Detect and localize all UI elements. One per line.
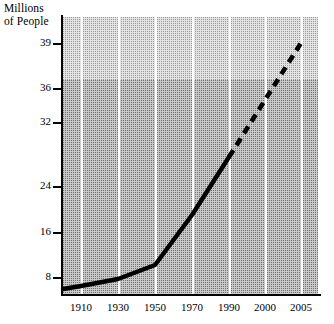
y-tick-label-36: 36 (11, 82, 51, 93)
gridline-2000 (265, 17, 267, 295)
x-tick-label-2005: 2005 (279, 301, 323, 313)
gridline-1910 (81, 17, 83, 295)
y-tick-label-39: 39 (11, 37, 51, 48)
y-tick-mark-32 (53, 122, 62, 124)
y-tick-mark-24 (53, 186, 62, 188)
y-tick-mark-39 (53, 43, 62, 45)
y-tick-label-24: 24 (11, 180, 51, 191)
gridline-1950 (155, 17, 157, 295)
population-line-chart: Millions of People 39363224168 191019301… (0, 0, 334, 324)
gridline-1930 (118, 17, 120, 295)
y-tick-mark-8 (53, 277, 62, 279)
gridline-1990 (229, 17, 231, 295)
y-axis-title: Millions of People (4, 2, 49, 27)
y-tick-label-16: 16 (11, 226, 51, 237)
background-band-dark (63, 80, 318, 295)
y-tick-label-8: 8 (11, 271, 51, 282)
y-tick-label-32: 32 (11, 116, 51, 127)
y-axis-line (61, 15, 63, 296)
y-tick-mark-16 (53, 232, 62, 234)
gridline-2005 (301, 17, 303, 295)
x-axis-line (61, 294, 321, 296)
gridline-1970 (192, 17, 194, 295)
plot-area (63, 17, 318, 295)
background-band-light (63, 17, 318, 80)
y-tick-mark-36 (53, 88, 62, 90)
